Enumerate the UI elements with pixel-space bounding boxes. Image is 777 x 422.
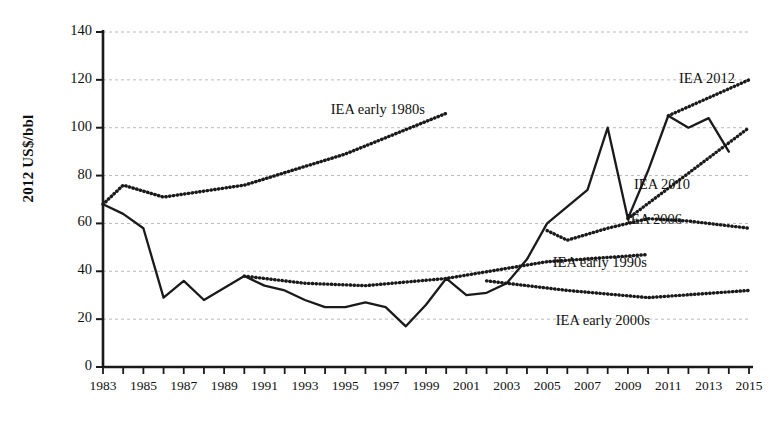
x-tick-label: 1999 [403, 378, 449, 394]
series-annotation-label: IEA 2006 [626, 211, 682, 228]
x-tick-label: 1995 [322, 378, 368, 394]
x-tick-label: 2013 [686, 378, 732, 394]
x-tick-label: 1991 [242, 378, 288, 394]
y-tick-label: 20 [48, 309, 92, 326]
y-tick-label: 80 [48, 166, 92, 183]
y-tick-label: 0 [48, 357, 92, 374]
x-tick-label: 2011 [645, 378, 691, 394]
x-tick-label: 1997 [363, 378, 409, 394]
x-tick-label: 2009 [605, 378, 651, 394]
x-tick-label: 2005 [524, 378, 570, 394]
x-tick-label: 2007 [565, 378, 611, 394]
x-tick-label: 1983 [80, 378, 126, 394]
y-tick-label: 100 [48, 118, 92, 135]
x-tick-label: 2001 [443, 378, 489, 394]
x-tick-label: 1985 [120, 378, 166, 394]
series-annotation-label: IEA 2010 [634, 176, 690, 193]
x-tick-label: 1989 [201, 378, 247, 394]
series-annotation-label: IEA early 1990s [553, 254, 647, 271]
series-annotation-label: IEA early 1980s [331, 101, 425, 118]
x-tick-label: 1987 [161, 378, 207, 394]
y-tick-label: 120 [48, 70, 92, 87]
oil-price-chart: 2012 US$/bbl 020406080100120140198319851… [0, 0, 777, 422]
y-tick-label: 60 [48, 213, 92, 230]
series-line [103, 113, 446, 204]
y-tick-label: 40 [48, 261, 92, 278]
series-annotation-label: IEA early 2000s [556, 312, 650, 329]
x-tick-label: 2015 [726, 378, 772, 394]
x-tick-label: 2003 [484, 378, 530, 394]
series-line [487, 281, 749, 298]
series-annotation-label: IEA 2012 [679, 70, 735, 87]
x-tick-label: 1993 [282, 378, 328, 394]
y-tick-label: 140 [48, 22, 92, 39]
